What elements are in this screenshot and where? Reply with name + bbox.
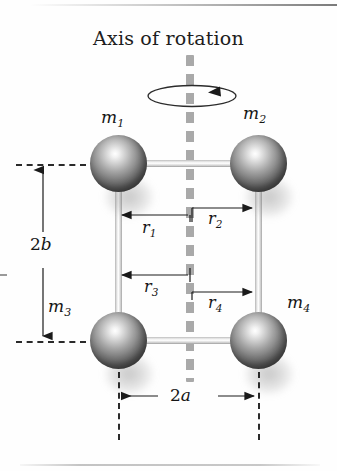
radius-label-r1-symbol: r xyxy=(142,218,150,237)
physics-figure-rotating-masses: Axis of rotation m1 m2 m3 m4 xyxy=(0,0,337,471)
dimension-label-2b-prefix: 2 xyxy=(30,234,41,254)
mass-label-m3: m3 xyxy=(48,296,71,319)
mass-label-m2-symbol: m xyxy=(243,103,259,123)
mass-label-m4-subscript: 4 xyxy=(303,302,310,315)
page-rule-left xyxy=(0,274,7,276)
mass-label-m1-subscript: 1 xyxy=(117,117,124,130)
extension-line-left xyxy=(118,372,120,440)
mass-label-m1-symbol: m xyxy=(101,107,117,127)
radius-label-r2-subscript: 2 xyxy=(216,218,223,230)
dimension-label-2a-symbol: a xyxy=(181,385,191,405)
mass-sphere-m3 xyxy=(90,312,147,369)
extension-line-right xyxy=(258,372,260,440)
mass-sphere-m4 xyxy=(230,312,287,369)
mass-label-m2-subscript: 2 xyxy=(259,113,266,126)
radius-label-r3: r3 xyxy=(144,277,158,298)
reference-line-top xyxy=(16,164,86,166)
radius-label-r1-subscript: 1 xyxy=(150,227,157,239)
dimension-label-2b-symbol: b xyxy=(41,234,52,254)
dimension-label-2a: 2a xyxy=(170,385,191,405)
reference-line-bottom xyxy=(16,341,86,343)
mass-sphere-m2 xyxy=(230,135,287,192)
mass-label-m1: m1 xyxy=(101,107,124,130)
mass-label-m4-symbol: m xyxy=(287,292,303,312)
mass-sphere-m1 xyxy=(90,135,147,192)
radius-label-r3-symbol: r xyxy=(144,277,152,296)
radius-label-r1: r1 xyxy=(142,218,156,239)
mass-label-m2: m2 xyxy=(243,103,266,126)
figure-title: Axis of rotation xyxy=(0,27,337,49)
radius-label-r2: r2 xyxy=(208,209,222,230)
radius-label-r2-symbol: r xyxy=(208,209,216,228)
radius-label-r4-symbol: r xyxy=(208,293,216,312)
mass-label-m3-symbol: m xyxy=(48,296,64,316)
rotation-direction-icon xyxy=(146,84,238,108)
radius-label-r4-subscript: 4 xyxy=(216,302,223,314)
page-rule-top xyxy=(30,4,337,6)
dimension-label-2b: 2b xyxy=(30,234,52,254)
mass-label-m4: m4 xyxy=(287,292,310,315)
radius-label-r3-subscript: 3 xyxy=(152,286,159,298)
radius-label-r4: r4 xyxy=(208,293,222,314)
page-rule-bottom xyxy=(20,464,320,466)
dimension-label-2a-prefix: 2 xyxy=(170,385,181,405)
mass-label-m3-subscript: 3 xyxy=(64,306,71,319)
